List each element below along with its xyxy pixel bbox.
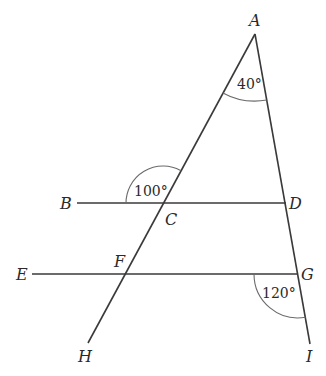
angle-arc-A [223, 93, 267, 101]
angle-label-C: 100° [134, 183, 168, 199]
label-I: I [305, 347, 313, 366]
line-AH [88, 34, 255, 343]
angle-label-A: 40° [237, 76, 262, 92]
label-G: G [301, 265, 314, 284]
label-E: E [15, 265, 28, 284]
label-H: H [77, 347, 93, 366]
label-C: C [165, 210, 177, 229]
label-D: D [288, 194, 302, 213]
label-F: F [113, 252, 126, 271]
angle-label-G: 120° [262, 285, 296, 301]
label-B: B [59, 194, 72, 213]
geometry-diagram: A B C D E F G H I 40° 100° 120° [0, 0, 326, 376]
label-A: A [247, 11, 261, 30]
